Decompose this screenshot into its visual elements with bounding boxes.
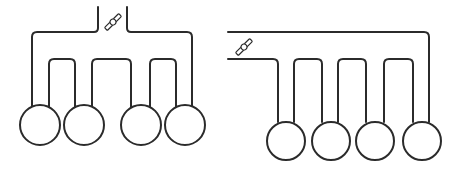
outer-pipe-top [228,32,429,122]
tank [267,122,305,160]
manifold-diagram [0,0,457,169]
tank [64,105,104,145]
tank [356,122,394,160]
center-fed-layout [20,7,205,145]
inner-loop-2 [338,59,366,122]
tank [121,105,161,145]
side-fed-layout [228,32,441,160]
valve-icon [235,38,253,56]
inner-loop-1 [294,59,322,122]
outer-pipe-left [32,7,98,107]
inner-loop-3 [384,59,413,122]
tank [403,122,441,160]
tank [165,105,205,145]
feed-pipe-lower [228,59,278,122]
inner-loop-2 [92,59,131,107]
valve-icon [104,13,122,31]
tank [312,122,350,160]
inner-loop-3 [150,59,176,107]
outer-pipe-right [127,7,192,107]
inner-loop-1 [49,59,75,107]
tank [20,105,60,145]
